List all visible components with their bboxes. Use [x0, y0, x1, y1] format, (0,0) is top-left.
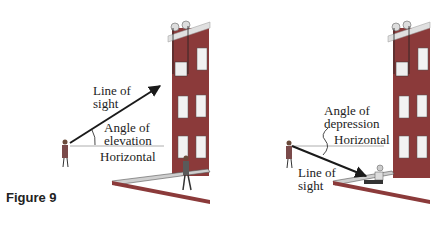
depression-pointer [323, 128, 328, 155]
curb-left [112, 181, 210, 204]
horizontal-label-left: Horizontal [100, 150, 156, 163]
figure-caption: Figure 9 [6, 190, 57, 205]
angle-of-depression-label: Angle of depression [324, 104, 380, 130]
building-left [168, 21, 210, 176]
sidewalk-left [112, 169, 210, 185]
left-panel [62, 21, 210, 204]
label-line: sight [298, 179, 336, 192]
label-line: elevation [104, 134, 152, 147]
line-of-sight-label-right: Line of sight [298, 166, 336, 192]
curb-right [333, 181, 430, 204]
label-line: sight [93, 97, 131, 110]
observer-left [62, 140, 68, 168]
horizontal-label-right: Horizontal [334, 133, 390, 146]
building-right [388, 21, 430, 178]
elevation-arc [92, 130, 95, 145]
observer-right [286, 141, 292, 169]
line-of-sight-label-left: Line of sight [93, 84, 131, 110]
angle-of-elevation-label: Angle of elevation [104, 121, 152, 147]
label-line: depression [324, 117, 380, 130]
